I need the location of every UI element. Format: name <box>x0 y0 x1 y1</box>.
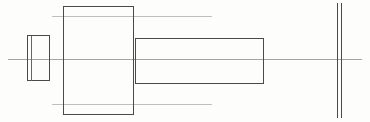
left-small-rectangle <box>28 36 50 81</box>
engineering-drawing-canvas <box>0 0 370 122</box>
shaft-rectangle <box>136 39 264 84</box>
drawing-svg <box>0 0 370 122</box>
flange-rectangle <box>64 7 134 115</box>
